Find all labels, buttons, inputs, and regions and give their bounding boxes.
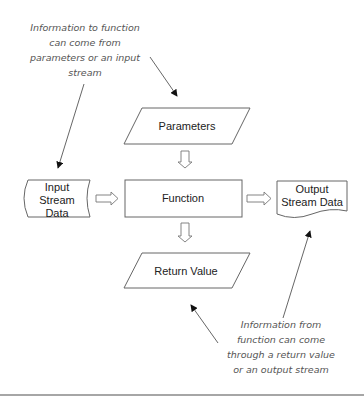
function-io-diagram: Information to function can come from pa… (0, 0, 364, 399)
top-note-line-2: can come from (49, 37, 121, 48)
return-value-label: Return Value (154, 265, 217, 277)
output-stream-label-1: Output (295, 183, 328, 195)
leader-to-parameters-arrow (150, 57, 177, 96)
bottom-annotation: Information from function can come throu… (227, 319, 335, 375)
leader-to-output-arrow (283, 231, 310, 318)
function-node: Function (125, 180, 242, 217)
bottom-note-line-2: function can come (237, 334, 325, 345)
right-arrow-icon (247, 192, 271, 205)
return-value-node: Return Value (124, 253, 250, 288)
top-note-line-4: stream (68, 67, 102, 78)
input-stream-label-1: Input (45, 181, 69, 193)
right-arrow-icon (96, 192, 118, 205)
bottom-note-line-1: Information from (241, 319, 322, 330)
function-label: Function (162, 192, 204, 204)
output-stream-label-2: Stream Data (281, 196, 344, 208)
top-note-line-3: parameters or an input (29, 52, 141, 63)
parameters-label: Parameters (159, 120, 216, 132)
input-stream-label-2: Stream (39, 194, 74, 206)
bottom-note-line-3: through a return value (227, 349, 335, 360)
top-note-line-1: Information to function (30, 22, 140, 33)
parameters-node: Parameters (124, 108, 250, 144)
input-stream-node: Input Stream Data (24, 180, 90, 219)
leader-to-return-value-arrow (191, 305, 218, 343)
down-arrow-icon (178, 223, 192, 242)
down-arrow-icon (178, 151, 192, 168)
bottom-note-line-4: or an output stream (233, 364, 328, 375)
top-annotation: Information to function can come from pa… (29, 22, 141, 78)
output-stream-node: Output Stream Data (277, 181, 347, 218)
input-stream-label-3: Data (45, 207, 69, 219)
leader-to-input-arrow (58, 84, 84, 168)
